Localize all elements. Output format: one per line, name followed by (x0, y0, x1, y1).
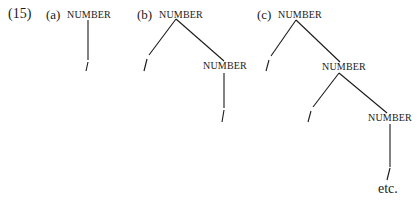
tree-c-child-node: NUMBER (322, 62, 366, 72)
tree-branches (0, 0, 417, 201)
example-number: (15) (8, 7, 31, 21)
tree-b-child-node: NUMBER (203, 61, 247, 71)
tree-c-root-node: NUMBER (278, 10, 322, 20)
tree-c-grandchild-node: NUMBER (368, 113, 412, 123)
tree-b-label: (b) (137, 8, 152, 21)
tree-b-root-node: NUMBER (159, 10, 203, 20)
tree-a-root-node: NUMBER (67, 10, 111, 20)
tree-c-continuation: etc. (378, 182, 398, 196)
tree-a-label: (a) (46, 8, 60, 21)
tree-c-label: (c) (257, 8, 271, 21)
